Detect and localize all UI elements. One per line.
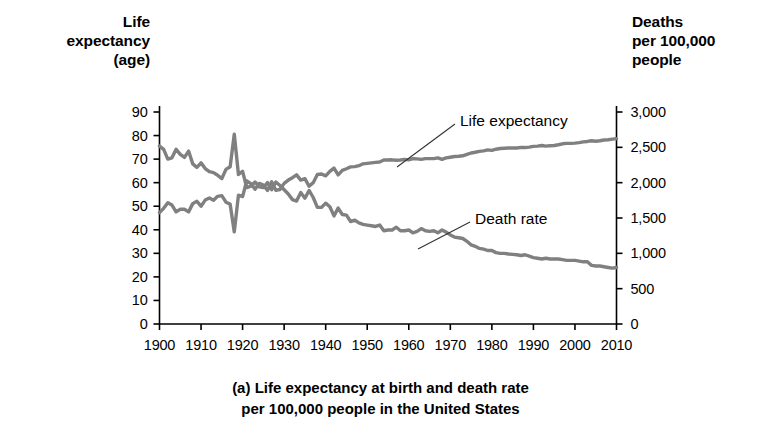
y2-tick-label-2500: 2,500 (631, 140, 701, 155)
y-tick-label-40: 40 (88, 223, 148, 238)
y2-tick-label-2000: 2,000 (631, 176, 701, 191)
y-tick-label-70: 70 (88, 152, 148, 167)
y-tick-label-50: 50 (88, 199, 148, 214)
x-tick-label-1900: 1900 (137, 338, 183, 353)
y-tick-label-10: 10 (88, 293, 148, 308)
x-tick-label-1910: 1910 (178, 338, 224, 353)
x-tick-label-2000: 2000 (552, 338, 598, 353)
series-line-death-rate (160, 134, 617, 268)
x-tick-label-1940: 1940 (303, 338, 349, 353)
series-label-death-rate: Death rate (475, 211, 547, 227)
right-axis-title: Deaths per 100,000 people (632, 12, 757, 69)
x-tick-label-2010: 2010 (594, 338, 640, 353)
x-tick-label-1930: 1930 (261, 338, 307, 353)
x-tick-label-1960: 1960 (386, 338, 432, 353)
left-axis-title: Life expectancy (age) (20, 12, 150, 69)
series-lines-group (160, 134, 617, 268)
y-tick-label-20: 20 (88, 270, 148, 285)
x-tick-label-1950: 1950 (344, 338, 390, 353)
figure-panel: Life expectancy (age) Deaths per 100,000… (0, 0, 761, 433)
y-tick-label-90: 90 (88, 105, 148, 120)
x-tick-label-1920: 1920 (220, 338, 266, 353)
y2-tick-label-0: 0 (631, 317, 701, 332)
y2-tick-label-1000: 1,000 (631, 246, 701, 261)
series-line-life-expectancy (160, 139, 617, 232)
x-tick-label-1970: 1970 (427, 338, 473, 353)
figure-caption: (a) Life expectancy at birth and death r… (0, 377, 761, 419)
y-tick-label-60: 60 (88, 176, 148, 191)
leader-line-death-rate (418, 222, 470, 249)
y-tick-label-0: 0 (88, 317, 148, 332)
y2-tick-label-1500: 1,500 (631, 211, 701, 226)
y2-tick-label-3000: 3,000 (631, 105, 701, 120)
y-tick-label-30: 30 (88, 246, 148, 261)
y2-tick-label-500: 500 (631, 282, 701, 297)
axes-group (154, 106, 623, 330)
series-label-life-expectancy: Life expectancy (460, 113, 568, 129)
y-tick-label-80: 80 (88, 129, 148, 144)
leader-line-life-expectancy (397, 124, 455, 167)
x-tick-label-1990: 1990 (510, 338, 556, 353)
x-tick-label-1980: 1980 (469, 338, 515, 353)
